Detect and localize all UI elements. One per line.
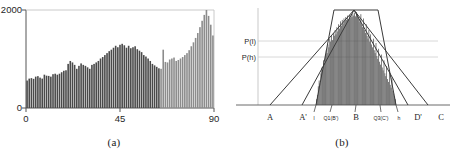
histogram-bar: [195, 38, 197, 108]
panel-b-label-b: B: [353, 112, 359, 122]
histogram-bar: [57, 75, 59, 108]
histogram-bar: [65, 70, 67, 108]
histogram-bar: [391, 88, 392, 105]
histogram-bar: [67, 64, 69, 108]
histogram-bar: [175, 61, 177, 108]
histogram-bar: [48, 76, 50, 108]
panel-a-xtick-90: 90: [209, 113, 220, 124]
histogram-bar: [180, 59, 182, 108]
histogram-bar: [147, 59, 149, 108]
histogram-bar: [28, 79, 30, 108]
histogram-bar: [188, 50, 190, 108]
histogram-bar: [201, 21, 203, 108]
histogram-bar: [333, 33, 334, 105]
histogram-bar: [385, 76, 386, 105]
histogram-bar: [356, 12, 357, 105]
histogram-bar: [358, 17, 359, 105]
histogram-bar: [208, 16, 210, 108]
histogram-bar: [327, 53, 328, 105]
histogram-bar: [371, 44, 372, 105]
histogram-bar: [186, 53, 188, 108]
histogram-bar: [206, 10, 208, 108]
histogram-bar: [31, 78, 33, 108]
panel-b-bars: [316, 12, 396, 105]
histogram-bar: [388, 82, 389, 105]
histogram-bar: [380, 65, 381, 105]
histogram-bar: [171, 59, 173, 108]
panel-b-label-h: h: [398, 115, 401, 121]
histogram-bar: [347, 16, 348, 105]
histogram-bar: [35, 77, 37, 108]
histogram-bar: [130, 48, 132, 108]
histogram-bar: [124, 45, 126, 108]
histogram-bar: [52, 74, 54, 108]
histogram-bar: [102, 57, 104, 108]
histogram-bar: [351, 14, 352, 105]
histogram-bar: [376, 43, 377, 105]
histogram-bar: [82, 65, 84, 108]
histogram-bar: [63, 71, 65, 108]
histogram-bar: [106, 53, 108, 108]
histogram-bar: [212, 35, 214, 108]
histogram-bar: [367, 36, 368, 105]
histogram-bar: [143, 55, 145, 108]
panel-b-label-c: C: [438, 112, 444, 122]
histogram-bar: [89, 69, 91, 108]
panel-a-xtick-0: 0: [23, 113, 28, 124]
panel-b-label-a: A: [267, 112, 274, 122]
histogram-bar: [184, 55, 186, 108]
histogram-bar: [203, 15, 205, 108]
histogram-bar: [346, 20, 347, 105]
histogram-bar: [149, 61, 151, 108]
histogram-bar: [87, 67, 89, 108]
histogram-bar: [37, 76, 39, 108]
histogram-bar: [98, 61, 100, 108]
histogram-bar: [193, 42, 195, 108]
histogram-bar: [111, 50, 113, 108]
histogram-bar: [359, 19, 360, 105]
histogram-bar: [350, 18, 351, 105]
histogram-bar: [375, 53, 376, 105]
figure-container: 2000 0 0 45 90 (a): [0, 0, 456, 149]
histogram-bar: [132, 47, 134, 108]
histogram-bar: [384, 60, 385, 105]
histogram-bar: [393, 91, 394, 105]
histogram-bar: [210, 25, 212, 108]
histogram-bar: [326, 50, 327, 105]
histogram-bar: [104, 55, 106, 108]
histogram-bar: [136, 49, 138, 108]
histogram-bar: [338, 24, 339, 105]
histogram-bar: [361, 24, 362, 105]
histogram-bar: [353, 16, 354, 105]
histogram-bar: [160, 69, 162, 108]
histogram-bar: [158, 68, 160, 108]
histogram-bar: [44, 75, 46, 108]
histogram-bar: [373, 39, 374, 105]
histogram-bar: [369, 30, 370, 105]
histogram-bar: [337, 27, 338, 105]
histogram-bar: [378, 49, 379, 105]
histogram-bar: [50, 77, 52, 108]
histogram-bar: [322, 70, 323, 105]
panel-b-label-q1: Q1(B'): [324, 115, 339, 121]
histogram-bar: [361, 14, 362, 105]
histogram-bar: [156, 67, 158, 108]
histogram-bar: [330, 42, 331, 105]
histogram-bar: [386, 66, 387, 105]
histogram-bar: [390, 85, 391, 105]
histogram-bar: [345, 21, 346, 105]
histogram-bar: [372, 47, 373, 105]
histogram-bar: [46, 76, 48, 108]
panel-b-plot: P(l) P(h) A A' l Q1(B') B Q3(C') h D' C: [228, 0, 456, 130]
histogram-bar: [319, 80, 320, 105]
histogram-bar: [352, 17, 353, 105]
histogram-bar: [154, 65, 156, 108]
histogram-bar: [134, 46, 136, 108]
histogram-bar: [59, 74, 61, 108]
histogram-bar: [26, 81, 28, 108]
histogram-bar: [382, 68, 383, 105]
histogram-bar: [85, 66, 87, 108]
panel-a: 2000 0 0 45 90 (a): [0, 0, 228, 149]
histogram-bar: [117, 47, 119, 108]
histogram-bar: [39, 78, 41, 108]
